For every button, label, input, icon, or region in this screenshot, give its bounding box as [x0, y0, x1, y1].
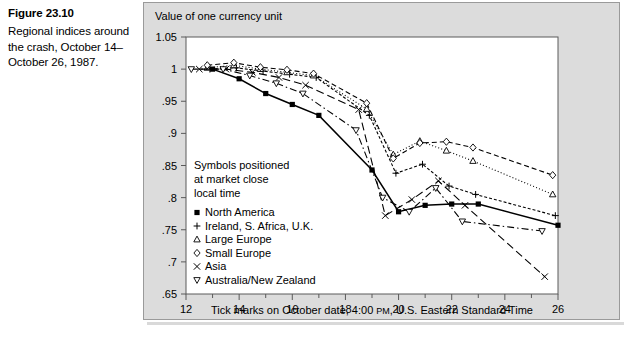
data-point-filled-square [237, 76, 242, 81]
chart-svg: Value of one currency unit 1.051.95.9.85… [144, 3, 619, 319]
data-point-filled-square [396, 209, 401, 214]
chart-panel: Value of one currency unit 1.051.95.9.85… [143, 2, 620, 320]
y-tick-label: .95 [162, 95, 177, 107]
figure-caption-block: Figure 23.10 Regional indices around the… [8, 6, 136, 71]
y-tick-label: .8 [168, 192, 177, 204]
y-tick-label: .85 [162, 160, 177, 172]
data-point-filled-square [423, 203, 428, 208]
legend-item-australia-new-zealand[interactable]: Australia/New Zealand [194, 274, 316, 286]
legend-item-large-europe[interactable]: Large Europe [194, 233, 272, 245]
y-axis-ticks: 1.051.95.9.85.8.75.7.65 [156, 31, 186, 300]
legend-item-label: Asia [205, 260, 227, 272]
y-tick-label: .9 [168, 127, 177, 139]
y-axis-title: Value of one currency unit [155, 10, 282, 22]
legend-item-label: Small Europe [205, 247, 271, 259]
legend-item-label: Ireland, S. Africa, U.K. [205, 220, 313, 232]
data-point-filled-square [194, 210, 199, 215]
legend-item-ireland-s-africa-u-k[interactable]: Ireland, S. Africa, U.K. [194, 220, 314, 232]
legend-item-north-america[interactable]: North America [194, 206, 275, 218]
legend-item-small-europe[interactable]: Small Europe [194, 247, 271, 259]
legend-item-label: Large Europe [205, 233, 272, 245]
data-point-filled-square [449, 201, 454, 206]
legend-note-line: Symbols positioned [194, 159, 289, 171]
figure-number: Figure 23.10 [8, 6, 136, 21]
legend-item-label: Australia/New Zealand [205, 274, 316, 286]
y-tick-label: .65 [162, 288, 177, 300]
data-point-filled-square [263, 91, 268, 96]
figure-caption-text: Regional indices around the crash, Octob… [8, 24, 136, 71]
x-tick-label: 12 [180, 303, 192, 315]
x-tick-label: 26 [552, 303, 564, 315]
panel-shadow [147, 322, 624, 325]
x-axis-title: Tick marks on October date, 4:00 PM, U.S… [211, 304, 533, 316]
data-point-filled-square [290, 102, 295, 107]
y-tick-label: 1 [171, 63, 177, 75]
y-tick-label: .7 [168, 256, 177, 268]
y-tick-label: .75 [162, 224, 177, 236]
data-point-filled-square [555, 223, 560, 228]
legend-item-label: North America [205, 206, 276, 218]
data-point-filled-square [476, 201, 481, 206]
legend-note-line: local time [194, 187, 240, 199]
data-point-filled-square [316, 113, 321, 118]
y-tick-label: 1.05 [156, 31, 177, 43]
legend-note-line: at market close [194, 173, 269, 185]
